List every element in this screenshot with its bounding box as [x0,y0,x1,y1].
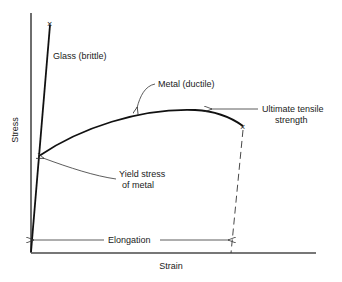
glass-label: Glass (brittle) [53,51,107,61]
metal-curve [39,110,243,156]
yield-label-line2: of metal [122,180,154,190]
yield-label-line1: Yield stress [119,169,166,179]
metal-label-arrow [137,84,155,108]
elongation-label: Elongation [108,235,151,245]
uts-label-line2: strength [275,115,308,125]
stress-strain-diagram: × × Glass (brittle) Metal (ductile) Ulti… [0,0,342,282]
glass-curve [31,25,50,252]
metal-label: Metal (ductile) [158,79,215,89]
glass-fracture-marker: × [47,19,52,29]
unloading-dashed-line [231,130,243,253]
uts-label-line1: Ultimate tensile [262,104,324,114]
y-axis-label: Stress [10,117,20,143]
yield-arrow [43,158,116,179]
x-axis-label: Strain [159,261,183,271]
